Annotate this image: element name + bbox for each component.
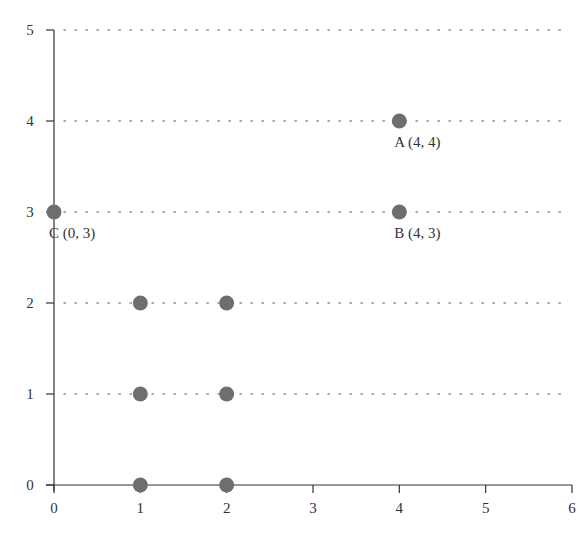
point-label-2: C (0, 3) (49, 225, 95, 242)
x-tick-label-5: 5 (482, 500, 490, 516)
data-point-6 (219, 387, 234, 402)
x-tick-label-2: 2 (223, 500, 231, 516)
x-tick-label-4: 4 (396, 500, 404, 516)
scatter-chart: 012345 0123456 A (4, 4)B (4, 3)C (0, 3) (0, 0, 588, 539)
y-tick-label-0: 0 (26, 477, 34, 493)
point-labels: A (4, 4)B (4, 3)C (0, 3) (49, 134, 441, 242)
x-tick-label-1: 1 (137, 500, 145, 516)
y-tick-label-1: 1 (26, 386, 34, 402)
data-point-2 (47, 205, 62, 220)
data-point-5 (133, 387, 148, 402)
point-label-0: A (4, 4) (394, 134, 440, 151)
data-point-8 (219, 478, 234, 493)
data-points (47, 114, 407, 493)
data-point-7 (133, 478, 148, 493)
x-tick-label-3: 3 (309, 500, 317, 516)
data-point-4 (219, 296, 234, 311)
y-axis-ticks: 012345 (26, 22, 54, 493)
grid-lines (64, 30, 568, 394)
data-point-3 (133, 296, 148, 311)
y-tick-label-4: 4 (26, 113, 34, 129)
point-label-1: B (4, 3) (394, 225, 440, 242)
y-tick-label-2: 2 (26, 295, 34, 311)
x-axis-ticks: 0123456 (50, 485, 576, 516)
x-tick-label-6: 6 (568, 500, 576, 516)
axes (46, 30, 572, 491)
data-point-0 (392, 114, 407, 129)
y-tick-label-5: 5 (26, 22, 34, 38)
y-tick-label-3: 3 (26, 204, 34, 220)
x-tick-label-0: 0 (50, 500, 58, 516)
data-point-1 (392, 205, 407, 220)
